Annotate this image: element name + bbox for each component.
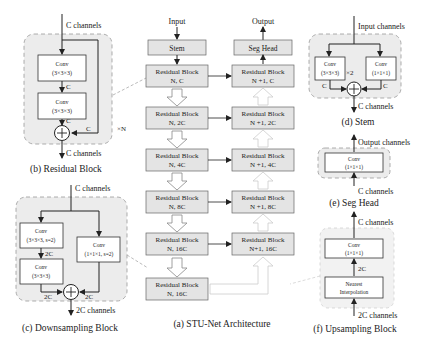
- downsampling-edge-mid: 2C: [45, 250, 54, 258]
- architecture-caption: (a) STU-Net Architecture: [173, 319, 270, 330]
- downsampling-conv-a-box: [20, 223, 63, 248]
- encoder-block-5-title: Residual Block: [156, 236, 199, 244]
- encoder-block-6-title: Residual Block: [156, 281, 199, 289]
- upsampling-input-label: 2C channels: [358, 311, 397, 320]
- upsampling-panel: C channels Conv (1×1×1) 2C Nearest Inter…: [313, 212, 397, 335]
- upsampling-output-label: C channels: [358, 218, 393, 227]
- stu-net-diagram: C channels C Conv (3×3×3) C Conv (3×3×3)…: [0, 0, 421, 350]
- seg-head-output-label: Output channels: [358, 138, 410, 147]
- downsampling-conv-skip-title: Conv: [93, 242, 105, 248]
- downsampling-connector-line: [127, 255, 148, 268]
- seg-head-label: Seg Head: [249, 44, 278, 53]
- stem-input-label: Input channels: [358, 22, 405, 31]
- up-arrow-icon: [253, 130, 273, 147]
- residual-conv1-title: Conv: [55, 61, 68, 67]
- stem-label: Stem: [169, 44, 185, 53]
- stem-conv-b-kernel: (1×1×1): [372, 70, 390, 77]
- encoder-block-3-title: Residual Block: [156, 152, 199, 160]
- residual-connector-line: [113, 77, 148, 95]
- residual-block-panel: C channels C Conv (3×3×3) C Conv (3×3×3)…: [24, 14, 126, 175]
- stem-conv-a-title: Conv: [324, 61, 336, 67]
- residual-edge-c2: C: [66, 117, 71, 125]
- down-arrow-icon: [167, 258, 187, 277]
- encoder-block-5-sub: N, 16C: [167, 245, 188, 253]
- down-arrow-icon: [167, 173, 187, 190]
- decoder-block-5-title: Residual Block: [242, 236, 285, 244]
- skip-connections: [208, 76, 231, 244]
- encoder-block-4-title: Residual Block: [156, 194, 199, 202]
- decoder-block-4-sub: N +1, 8C: [250, 203, 276, 211]
- stem-conv-b-title: Conv: [375, 61, 387, 67]
- upsampling-interp-line1: Nearest: [346, 281, 363, 287]
- seg-head-caption: (e) Seg Head: [329, 198, 379, 209]
- residual-conv1-box: [38, 55, 86, 81]
- down-arrow-icon: [167, 131, 187, 148]
- downsampling-input-label: C channels: [75, 184, 110, 193]
- downsampling-conv-a-kernel: (3×3×3, s=2): [27, 237, 56, 244]
- residual-conv2-title: Conv: [55, 99, 68, 105]
- encoder-block-2-title: Residual Block: [156, 110, 199, 118]
- decoder-block-3-sub: N +1, 4C: [250, 161, 276, 169]
- decoder-block-1-sub: N +1, C: [252, 77, 275, 85]
- downsampling-block-panel: C channels Conv (3×3×3, s=2) 2C Conv (3×…: [16, 184, 127, 334]
- downsampling-conv-b-box: [20, 259, 63, 284]
- encoder-block-6-sub: N, 16C: [167, 290, 188, 298]
- downsampling-output-label: 2C channels: [76, 306, 115, 315]
- down-arrow-icon: [167, 215, 187, 232]
- stem-conv-a-kernel: (3×3×3): [321, 70, 339, 77]
- residual-conv2-kernel: (3×3×3): [52, 108, 72, 115]
- seg-head-input-label: C channels: [358, 187, 393, 196]
- down-arrow-icon: [167, 89, 187, 106]
- residual-conv2-box: [38, 93, 86, 119]
- residual-edge-c1: C: [66, 83, 71, 91]
- upsampling-connector-line: [290, 276, 320, 284]
- decoder-block-3-title: Residual Block: [242, 152, 285, 160]
- residual-skip-label: C: [86, 125, 91, 133]
- upsampling-caption: (f) Upsampling Block: [313, 324, 397, 335]
- residual-input-label: C channels: [66, 21, 101, 30]
- input-label: Input: [169, 17, 187, 26]
- upsampling-conv-title: Conv: [348, 242, 360, 248]
- encoder-block-1-title: Residual Block: [156, 68, 199, 76]
- stem-output-label: C channels: [358, 102, 393, 111]
- up-arrow-icon: [253, 172, 273, 189]
- upsampling-conv-kernel: (1×1×1): [345, 250, 363, 257]
- decoder-block-2-sub: N +1, 2C: [250, 119, 276, 127]
- decoder-block-1-title: Residual Block: [242, 68, 285, 76]
- downsampling-conv-b-kernel: (3×3×3): [32, 273, 50, 280]
- residual-output-label: C channels: [66, 149, 101, 158]
- seg-head-conv-title: Conv: [348, 156, 360, 162]
- decoder-block-4-title: Residual Block: [242, 194, 285, 202]
- downsampling-conv-skip-kernel: (1×1×1, s=2): [85, 251, 114, 258]
- downsampling-caption: (c) Downsampling Block: [22, 323, 118, 334]
- upsampling-interp-line2: Interpolation: [340, 289, 369, 295]
- encoder-block-3-sub: N, 4C: [169, 161, 186, 169]
- up-arrow-icon: [253, 88, 273, 105]
- stem-edge-right: C: [383, 82, 388, 90]
- seg-head-conv-kernel: (1×1×1): [345, 164, 363, 171]
- architecture-panel: Input Stem Output Seg Head Residual Bloc…: [146, 17, 294, 330]
- upsampling-edge-mid: 2C: [358, 265, 367, 273]
- elbow-up-arrow-icon: [210, 257, 273, 294]
- downsampling-conv-b-title: Conv: [35, 264, 47, 270]
- up-arrow-icon: [253, 214, 273, 231]
- stem-panel: Input channels Conv (3×3×3) ×2 Conv (1×1…: [309, 16, 405, 128]
- stem-edge-left: C: [322, 82, 327, 90]
- stem-repeat-label: ×2: [346, 69, 354, 77]
- downsampling-edge-right: 2C: [85, 293, 94, 301]
- output-label: Output: [252, 17, 275, 26]
- decoder-block-2-title: Residual Block: [242, 110, 285, 118]
- residual-conv1-kernel: (3×3×3): [52, 70, 72, 77]
- downsampling-conv-skip-box: [77, 237, 120, 262]
- downsampling-edge-left: 2C: [44, 293, 53, 301]
- residual-repeat-label: ×N: [117, 125, 126, 133]
- seg-head-panel: Output channels Conv (1×1×1) C channels …: [318, 135, 410, 209]
- encoder-block-4-sub: N, 8C: [169, 203, 186, 211]
- downsampling-conv-a-title: Conv: [35, 228, 47, 234]
- decoder-block-5-sub: N+1, 16C: [249, 245, 277, 253]
- encoder-block-2-sub: N, 2C: [169, 119, 186, 127]
- encoder-block-1-sub: N, C: [170, 77, 184, 85]
- residual-caption: (b) Residual Block: [30, 164, 102, 175]
- stem-caption: (d) Stem: [342, 117, 376, 128]
